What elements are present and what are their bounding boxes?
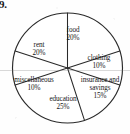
- slice-label-miscellaneous-pct: 10%: [6, 84, 62, 92]
- slice-label-rent: rent 20%: [25, 41, 53, 57]
- slice-label-miscellaneous-name: miscellaneous: [14, 76, 53, 84]
- slice-label-clothing: clothing 10%: [78, 54, 120, 70]
- slice-label-food-name: food: [67, 26, 80, 34]
- slice-label-insurance-name: insurance and: [81, 76, 119, 84]
- slice-label-education: education 25%: [39, 95, 87, 111]
- slice-label-food-pct: 20%: [56, 34, 90, 42]
- slice-label-miscellaneous: miscellaneous 10%: [6, 76, 62, 92]
- slice-label-education-name: education: [49, 95, 76, 103]
- slice-label-clothing-name: clothing: [88, 54, 111, 62]
- slice-label-clothing-pct: 10%: [78, 62, 120, 70]
- slice-label-education-pct: 25%: [39, 103, 87, 111]
- slice-label-food: food 20%: [56, 26, 90, 42]
- slice-label-insurance-name2: savings: [74, 84, 126, 92]
- slice-label-rent-name: rent: [34, 41, 45, 49]
- slice-label-rent-pct: 20%: [25, 49, 53, 57]
